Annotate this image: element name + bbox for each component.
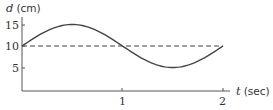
x-axis-label: t(sec): [236, 84, 270, 98]
y-tick-label-5: 5: [12, 62, 19, 75]
y-axis-label: d(cm): [6, 1, 41, 15]
x-tick-label-2: 2: [219, 95, 226, 108]
x-tick-label-1: 1: [119, 95, 126, 108]
y-tick-label-10: 10: [5, 40, 19, 53]
y-tick-label-15: 15: [5, 19, 19, 32]
chart: 15 10 5 1 2 d(cm) t(sec): [0, 0, 273, 110]
